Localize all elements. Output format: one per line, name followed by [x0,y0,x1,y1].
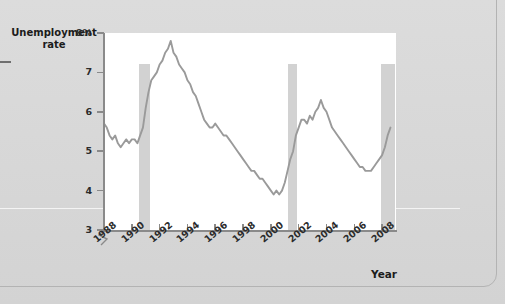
x-axis-title: Year [371,268,397,280]
plot-area [104,33,396,230]
y-tick-label-3: 3 [32,224,92,235]
y-tick-4 [97,190,104,192]
figure-panel: Unemployment rate 8%76543 19881990199219… [0,0,505,304]
y-tick-label-6: 6 [32,106,92,117]
y-tick-labels-group: 8%76543 [30,0,92,260]
unemployment-rate-line-chart: Unemployment rate 8%76543 19881990199219… [0,0,505,304]
y-axis-line [103,33,105,231]
y-tick-label-8: 8% [32,27,92,38]
y-tick-label-4: 4 [32,185,92,196]
y-tick-5 [97,150,104,152]
y-tick-7 [97,72,104,74]
y-tick-6 [97,111,104,113]
unemployment-series-line [104,33,396,230]
y-tick-label-5: 5 [32,145,92,156]
y-tick-label-7: 7 [32,66,92,77]
y-tick-8 [97,32,104,34]
